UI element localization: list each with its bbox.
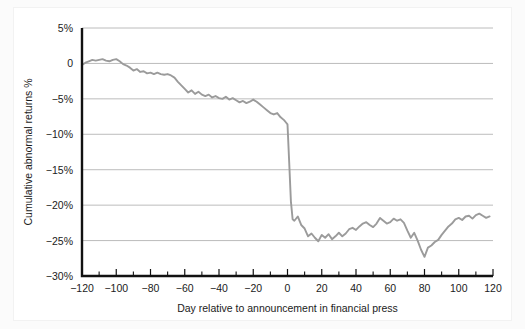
y-axis-title: Cumulative abnormal returns % — [22, 78, 34, 225]
x-tick-label: −60 — [176, 282, 194, 294]
y-tick-label: −25% — [46, 235, 73, 247]
x-tick-label: −80 — [142, 282, 160, 294]
x-tick-label: 0 — [285, 282, 291, 294]
x-tick-label: 80 — [419, 282, 431, 294]
x-tick-label: 20 — [316, 282, 328, 294]
figure-container: −120−100−80−60−40−20020406080100120 5%0−… — [0, 0, 525, 329]
y-tick-label: −15% — [46, 164, 73, 176]
cumulative-abnormal-returns-chart: −120−100−80−60−40−20020406080100120 5%0−… — [14, 8, 511, 320]
x-tick-label: 120 — [484, 282, 502, 294]
y-tick-label: −20% — [46, 199, 73, 211]
y-tick-label: −10% — [46, 128, 73, 140]
x-tick-label: −40 — [210, 282, 228, 294]
series-line-0 — [82, 59, 490, 257]
x-axis-title: Day relative to announcement in financia… — [177, 302, 398, 314]
series-group — [82, 59, 490, 257]
x-tick-label: 40 — [350, 282, 362, 294]
chart-card: −120−100−80−60−40−20020406080100120 5%0−… — [14, 8, 511, 320]
axis-spines — [82, 28, 493, 276]
x-tick-label: 60 — [384, 282, 396, 294]
x-tick-label: −120 — [70, 282, 94, 294]
y-tick-label-group: 5%0−5%−10%−15%−20%−25%−30% — [46, 22, 73, 282]
y-tick-label: 5% — [58, 22, 73, 34]
y-tick-label: 0 — [67, 57, 73, 69]
y-tick-label: −5% — [52, 93, 73, 105]
y-tick-label: −30% — [46, 270, 73, 282]
x-tick-group: −120−100−80−60−40−20020406080100120 — [70, 269, 502, 294]
x-tick-label: 100 — [450, 282, 468, 294]
axes-group — [82, 28, 493, 276]
x-tick-label: −100 — [104, 282, 128, 294]
x-tick-label: −20 — [244, 282, 262, 294]
